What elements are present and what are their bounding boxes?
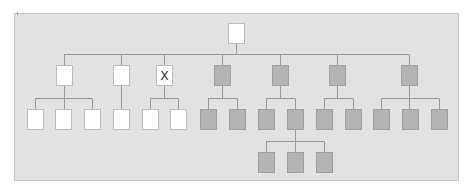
tree-node-c-marked: X [156,65,173,86]
tree-node-g3 [431,109,448,130]
tree-node-g1 [373,109,390,130]
tree-node-g [401,65,418,86]
tree-node-f2 [345,109,362,130]
tree-node-e2a [258,152,275,173]
tree-node-d [214,65,231,86]
tree-node-d1 [200,109,217,130]
tree-node-e1 [258,109,275,130]
tree-node-a1 [27,109,44,130]
tree-node-b [113,65,130,86]
tree-node-c1 [142,109,159,130]
tree-node-b1 [113,109,130,130]
tree-node-e [272,65,289,86]
tree-node-root [228,23,245,44]
tree-node-e2b [287,152,304,173]
tree-node-a [56,65,73,86]
tree-node-f1 [316,109,333,130]
tree-node-e2 [287,109,304,130]
tree-node-g2 [402,109,419,130]
tree-node-a3 [84,109,101,130]
tree-node-f [329,65,346,86]
tree-node-d2 [229,109,246,130]
tree-node-a2 [55,109,72,130]
tree-node-e2c [316,152,333,173]
tree-node-c2 [170,109,187,130]
